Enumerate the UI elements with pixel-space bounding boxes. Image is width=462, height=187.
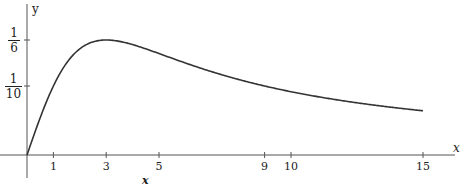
x-axis-below-label: x — [141, 174, 149, 187]
x-tick-label: 15 — [416, 160, 430, 173]
x-tick-label: 5 — [156, 160, 163, 173]
x-tick-label: 9 — [261, 160, 268, 173]
x-tick-label: 3 — [103, 160, 110, 173]
x-axis-end-label: x — [453, 141, 460, 155]
x-tick-label: 1 — [50, 160, 57, 173]
y-axis-label: y — [31, 2, 39, 16]
frac-numerator: 1 — [10, 26, 18, 40]
x-tick-label: 10 — [284, 160, 298, 173]
curve-line — [27, 40, 423, 155]
y-tick-label-1-10: 1 10 — [5, 73, 22, 100]
frac-denominator: 10 — [6, 87, 21, 101]
chart-canvas: 13591015 y x x — [0, 0, 462, 187]
frac-denominator: 6 — [10, 41, 18, 55]
frac-numerator: 1 — [10, 72, 18, 86]
y-tick-label-1-6: 1 6 — [8, 27, 20, 54]
